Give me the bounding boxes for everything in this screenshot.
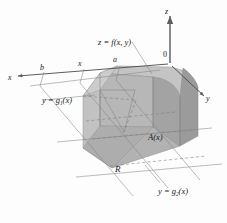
region-label: R — [114, 164, 121, 174]
cross-section-label: A(x) — [147, 132, 163, 142]
figure-svg: z y x 0 z = f(x, y) A(x) R b x a y = g1(… — [0, 0, 227, 223]
x-axis-label: x — [7, 73, 12, 82]
y-axis-label: y — [205, 94, 210, 103]
upper-boundary-label: y = g2(x) — [157, 186, 188, 197]
surface-label: z = f(x, y) — [97, 37, 131, 47]
calculus-solid-figure: z y x 0 z = f(x, y) A(x) R b x a y = g1(… — [0, 0, 227, 223]
lower-boundary-label: y = g1(x) — [41, 95, 72, 106]
tick-label-a: a — [113, 55, 117, 64]
z-axis-label: z — [164, 7, 169, 16]
floor-rail-2 — [76, 164, 222, 177]
tick-label-b: b — [40, 63, 44, 72]
origin-label: 0 — [163, 50, 167, 59]
tick-label-x: x — [77, 59, 82, 68]
